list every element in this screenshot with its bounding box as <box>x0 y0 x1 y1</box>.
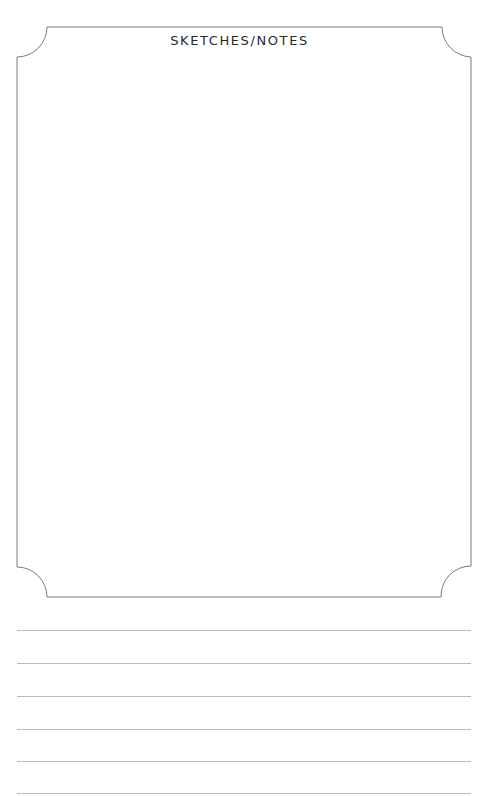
ruled-line <box>17 696 471 697</box>
sketch-area[interactable] <box>20 55 468 565</box>
ruled-line <box>17 729 471 730</box>
ruled-line <box>17 761 471 762</box>
ruled-line <box>17 630 471 631</box>
ruled-line <box>17 793 471 794</box>
page-title: SKETCHES/NOTES <box>0 33 479 48</box>
ruled-line <box>17 663 471 664</box>
